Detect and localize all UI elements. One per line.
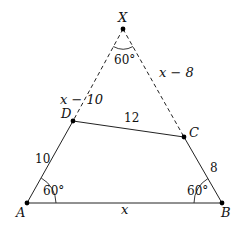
label-segment-ab: x xyxy=(121,202,129,217)
segment-xd xyxy=(73,29,123,121)
point-c xyxy=(182,135,187,140)
label-d: D xyxy=(60,106,72,121)
angle-arc-x xyxy=(113,47,133,50)
label-angle-x: 60° xyxy=(114,53,135,67)
label-segment-ad: 10 xyxy=(35,152,50,166)
label-segment-bc: 8 xyxy=(210,161,218,175)
label-angle-a: 60° xyxy=(43,184,64,198)
label-segment-dc: 12 xyxy=(124,111,139,125)
label-angle-b: 60° xyxy=(187,184,208,198)
label-segment-xc: x − 8 xyxy=(159,65,194,80)
label-segment-xd: x − 10 xyxy=(60,92,103,107)
geometry-diagram: X D C A B x − 10 x − 8 12 10 8 x 60° 60°… xyxy=(0,0,244,232)
label-c: C xyxy=(189,125,199,140)
label-b: B xyxy=(220,205,231,220)
label-a: A xyxy=(15,205,25,220)
label-x: X xyxy=(117,10,128,25)
point-x xyxy=(121,27,126,32)
